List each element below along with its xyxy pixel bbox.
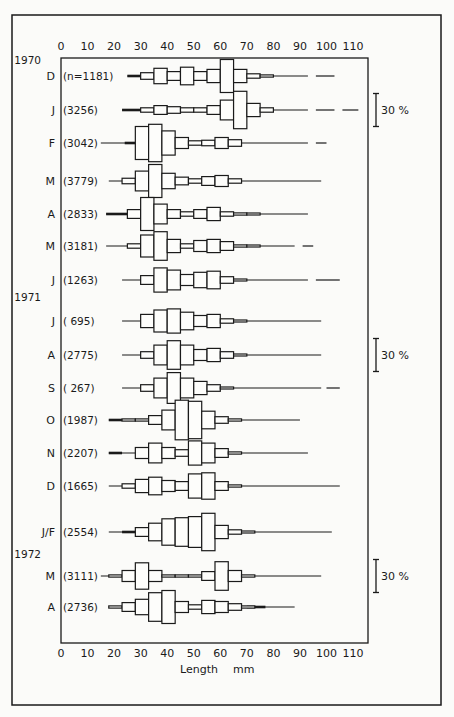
histogram-bin [141, 276, 154, 285]
histogram-bin [109, 606, 122, 608]
histogram-bin [109, 575, 122, 577]
histogram-bin [188, 517, 201, 548]
histogram-bin [135, 448, 148, 459]
histogram-bin [180, 212, 193, 216]
histogram-bin [220, 100, 233, 120]
histogram-bin [194, 241, 207, 252]
histogram-row: M(3779) [46, 165, 322, 198]
histogram-bin [242, 575, 255, 577]
histogram-bin [154, 268, 167, 292]
histogram-bin [194, 316, 207, 327]
x-tick-label: 40 [160, 40, 174, 53]
histogram-bin [175, 575, 188, 577]
histogram-bin [247, 245, 260, 247]
histogram-bin [220, 242, 233, 251]
histogram-bin [122, 484, 135, 488]
histogram-bin [234, 320, 247, 322]
histogram-bin [175, 138, 188, 149]
histogram-bin [135, 127, 148, 160]
x-tick-label: 0 [58, 647, 65, 660]
x-tick-label: 60 [213, 40, 227, 53]
x-tick-label: 90 [293, 647, 307, 660]
histogram-bin [215, 417, 228, 424]
histogram-bin [141, 73, 154, 80]
histogram-bin [180, 108, 193, 112]
histogram-bin [135, 599, 148, 614]
histogram-bin [141, 385, 154, 392]
histogram-bin [141, 198, 154, 231]
histogram-bin [202, 473, 215, 499]
month-label: D [47, 70, 55, 83]
histogram-bin [247, 103, 260, 116]
month-label: D [47, 480, 55, 493]
month-label: A [47, 601, 55, 614]
x-tick-label: 70 [240, 647, 254, 660]
histogram-bin [167, 107, 180, 114]
x-tick-label: 20 [107, 40, 121, 53]
x-tick-label: 100 [316, 40, 337, 53]
month-label: J [51, 315, 55, 328]
histogram-bin [207, 106, 220, 115]
histogram-bin [228, 485, 241, 487]
histogram-bin [207, 239, 220, 252]
histogram-row: A(2833) [47, 198, 307, 231]
histogram-bin [180, 275, 193, 286]
histogram-bin [207, 385, 220, 392]
histogram-row: D(1665) [47, 473, 340, 499]
histogram-bin [188, 474, 201, 498]
histogram-bin [234, 245, 247, 247]
x-tick-label: 90 [293, 40, 307, 53]
x-tick-label: 60 [213, 647, 227, 660]
histogram-bin [167, 210, 180, 219]
histogram-bin [141, 235, 154, 257]
histogram-bin [220, 387, 233, 389]
histogram-bin [194, 272, 207, 287]
histogram-bin [167, 72, 180, 81]
year-label: 1971 [14, 291, 41, 303]
histogram-bin [135, 479, 148, 492]
sample-size-label: (2207) [63, 447, 98, 459]
histogram-row: A(2775) [47, 341, 321, 370]
histogram-bin [188, 605, 201, 609]
histogram-bin [180, 67, 193, 85]
histogram-bin [154, 106, 167, 115]
scale-bar-label: 30 % [381, 570, 409, 583]
histogram-bin [188, 401, 201, 438]
histogram-bin [175, 450, 188, 457]
histogram-bin [207, 207, 220, 220]
scale-bar-label: 30 % [381, 104, 409, 117]
histogram-bin [202, 513, 215, 550]
histogram-row: F(3042) [49, 124, 327, 161]
x-tick-label: 0 [58, 40, 65, 53]
histogram-bin [188, 575, 201, 577]
histogram-bin [122, 419, 135, 421]
histogram-bin [220, 277, 233, 284]
sample-size-label: (n=1181) [63, 70, 113, 82]
histogram-bin [207, 314, 220, 327]
sample-size-label: (1665) [63, 480, 98, 492]
histogram-bin [234, 354, 247, 356]
sample-size-label: (1263) [63, 274, 98, 286]
histogram-bin [194, 381, 207, 394]
histogram-bin [167, 341, 180, 370]
histogram-row: J(3256) [51, 91, 359, 128]
histogram-bin [154, 68, 167, 83]
histogram-bin [194, 350, 207, 361]
histogram-bin [135, 419, 148, 421]
x-axis-label: Length [180, 663, 218, 676]
histogram-bin [220, 319, 233, 323]
histogram-bin [175, 602, 188, 613]
sample-size-label: (3779) [63, 175, 98, 187]
histogram-bin [167, 309, 180, 333]
x-axis-top-tick-labels: 0102030405060708090100110 [58, 40, 364, 53]
x-tick-label: 20 [107, 647, 121, 660]
histogram-bin [162, 481, 175, 492]
histogram-bin [154, 204, 167, 224]
sample-size-label: (3181) [63, 240, 98, 252]
month-label: M [46, 240, 56, 253]
sample-size-label: (3111) [63, 570, 98, 582]
x-axis-bottom-tick-labels: 0102030405060708090100110 [58, 647, 364, 660]
histogram-bin [162, 448, 175, 459]
histogram-bin [202, 600, 215, 613]
histogram-bin [234, 91, 247, 128]
